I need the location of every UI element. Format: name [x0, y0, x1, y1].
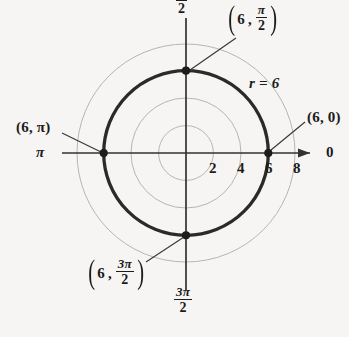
equation-label-r-equals-6: r = 6 — [249, 76, 279, 91]
point-label-6-pi-over-2: ( 6 , π 2 ) — [226, 4, 279, 34]
tick-label-4: 4 — [237, 161, 245, 176]
point-label-bottom-angle-numerator: 3π — [116, 257, 134, 272]
point-label-top-angle-numerator: π — [256, 3, 267, 18]
fraction-3pi-over-2: 3π 2 — [174, 285, 192, 315]
tick-label-8: 8 — [293, 161, 301, 176]
axis-label-3pi-over-2-numerator: 3π — [174, 285, 192, 300]
tick-label-6: 6 — [265, 161, 273, 176]
close-paren-top: ) — [270, 5, 277, 32]
leader-line-bottom — [146, 237, 184, 262]
axis-label-zero: 0 — [326, 145, 334, 160]
point-label-top-comma: , — [248, 12, 252, 27]
point-6-pi-over-2 — [182, 67, 190, 75]
axis-label-pi-over-2-denominator: 2 — [176, 1, 187, 16]
axis-label-3pi-over-2-denominator: 2 — [174, 300, 192, 315]
close-paren-bottom: ) — [137, 259, 144, 286]
fraction-bottom-angle: 3π 2 — [116, 257, 134, 287]
tick-label-2: 2 — [209, 161, 217, 176]
leader-line-left — [62, 133, 101, 152]
polar-graph-figure: π 2 3π 2 π 0 2 4 6 8 r = 6 (6, 0) (6, π)… — [0, 0, 349, 337]
ordered-pair-6-pi-over-2: ( 6 , π 2 ) — [226, 4, 279, 34]
ordered-pair-6-3pi-over-2: ( 6 , 3π 2 ) — [86, 258, 146, 288]
point-label-6-pi: (6, π) — [16, 120, 50, 135]
fraction-top-angle: π 2 — [256, 3, 267, 33]
point-6-0 — [264, 149, 272, 157]
point-6-pi — [100, 149, 108, 157]
x-axis-arrowhead — [298, 148, 310, 157]
equation-label-text: r = 6 — [249, 75, 279, 91]
point-label-6-0: (6, 0) — [307, 110, 341, 125]
open-paren-bottom: ( — [88, 259, 95, 286]
axis-label-pi: π — [36, 145, 44, 160]
point-label-bottom-comma: , — [108, 266, 112, 281]
open-paren-top: ( — [228, 5, 235, 32]
axis-label-pi-over-2: π 2 — [175, 0, 188, 17]
point-label-bottom-radius: 6 — [97, 266, 105, 281]
point-label-bottom-angle-denominator: 2 — [116, 272, 134, 287]
fraction-pi-over-2: π 2 — [176, 0, 187, 16]
point-label-top-angle-denominator: 2 — [256, 18, 267, 33]
leader-line-right — [271, 122, 305, 150]
leader-line-top — [190, 38, 236, 70]
point-label-6-3pi-over-2: ( 6 , 3π 2 ) — [86, 258, 146, 288]
polar-axes — [62, 18, 310, 290]
point-label-top-radius: 6 — [237, 12, 245, 27]
axis-label-3pi-over-2: 3π 2 — [173, 286, 193, 316]
point-6-3pi-over-2 — [182, 231, 190, 239]
